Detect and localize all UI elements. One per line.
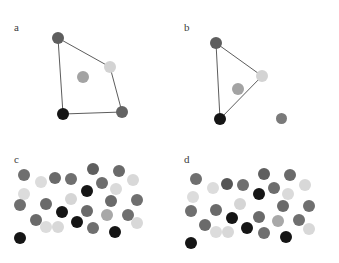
dot bbox=[293, 214, 305, 226]
panel-d: d bbox=[170, 132, 339, 263]
dot bbox=[234, 198, 246, 210]
dot bbox=[253, 211, 265, 223]
dot bbox=[96, 177, 108, 189]
dot bbox=[253, 188, 265, 200]
dot bbox=[272, 215, 284, 227]
dot bbox=[303, 200, 315, 212]
dot bbox=[110, 183, 122, 195]
dot bbox=[185, 237, 197, 249]
point-top-left bbox=[210, 37, 222, 49]
hull-edges-b bbox=[170, 0, 339, 131]
panel-c: c bbox=[0, 132, 169, 263]
dot bbox=[105, 195, 117, 207]
dot bbox=[221, 178, 233, 190]
dot bbox=[131, 194, 143, 206]
dot bbox=[190, 173, 202, 185]
dot bbox=[226, 212, 238, 224]
figure-canvas: abcd bbox=[0, 0, 339, 263]
point-bottom-left-black bbox=[57, 108, 69, 120]
dot bbox=[56, 206, 68, 218]
dot bbox=[237, 179, 249, 191]
dot bbox=[14, 199, 26, 211]
dot bbox=[65, 173, 77, 185]
point-outlier-bottom-right bbox=[276, 113, 287, 124]
point-bottom-left-black bbox=[214, 113, 226, 125]
point-bottom-right bbox=[116, 106, 128, 118]
point-interior bbox=[77, 71, 89, 83]
dot bbox=[81, 185, 93, 197]
dot bbox=[185, 205, 197, 217]
dot bbox=[113, 165, 125, 177]
dot bbox=[101, 209, 113, 221]
panel-label-c: c bbox=[14, 154, 19, 165]
dot bbox=[210, 204, 222, 216]
dot bbox=[210, 226, 222, 238]
dot bbox=[81, 205, 93, 217]
hull-edge bbox=[58, 38, 63, 114]
point-right-light bbox=[256, 70, 268, 82]
dot bbox=[258, 227, 270, 239]
dot bbox=[268, 182, 280, 194]
hull-edge bbox=[63, 112, 122, 114]
dot bbox=[127, 174, 139, 186]
dot bbox=[65, 193, 77, 205]
hull-edges-a bbox=[0, 0, 169, 131]
dot bbox=[303, 223, 315, 235]
panel-a: a bbox=[0, 0, 169, 131]
hull-edge bbox=[216, 43, 220, 119]
dot bbox=[87, 222, 99, 234]
dot bbox=[49, 172, 61, 184]
dot bbox=[284, 169, 296, 181]
dot bbox=[35, 176, 47, 188]
dot bbox=[280, 231, 292, 243]
dot bbox=[40, 198, 52, 210]
dot bbox=[282, 188, 294, 200]
dot bbox=[277, 200, 289, 212]
hull-edge bbox=[58, 38, 110, 67]
dot bbox=[71, 216, 83, 228]
hull-edge bbox=[220, 76, 262, 119]
dot bbox=[131, 217, 143, 229]
dot bbox=[40, 221, 52, 233]
dot bbox=[109, 226, 121, 238]
dot bbox=[222, 226, 234, 238]
dot bbox=[14, 232, 26, 244]
dot bbox=[187, 191, 199, 203]
point-right-light bbox=[104, 61, 116, 73]
dot bbox=[241, 222, 253, 234]
hull-edge bbox=[216, 43, 262, 76]
dot bbox=[52, 221, 64, 233]
dot bbox=[207, 182, 219, 194]
dot bbox=[199, 219, 211, 231]
point-interior bbox=[232, 83, 244, 95]
point-top-left bbox=[52, 32, 64, 44]
dot bbox=[299, 179, 311, 191]
dot bbox=[87, 163, 99, 175]
dot bbox=[258, 168, 270, 180]
dot bbox=[18, 169, 30, 181]
panel-b: b bbox=[170, 0, 339, 131]
panel-label-d: d bbox=[184, 154, 190, 165]
